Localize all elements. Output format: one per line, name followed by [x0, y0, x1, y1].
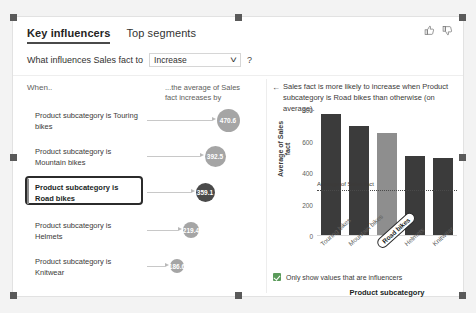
resize-handle-top-left[interactable] — [10, 14, 17, 21]
detail-bar-chart: Average of Sales fact 0200400600800 Aver… — [273, 110, 463, 260]
influencer-label: Product subcategory is Touring bikes — [35, 111, 139, 133]
header-divider — [13, 75, 463, 76]
thumbs-up-icon[interactable] — [424, 25, 435, 36]
y-axis-tick-label: 0 — [309, 233, 313, 240]
visual-tabs: Key influencers Top segments — [27, 27, 196, 44]
connector-arrow-icon — [212, 117, 216, 121]
y-axis-tick-label: 600 — [302, 138, 313, 145]
x-axis-title: Product subcategory — [317, 288, 457, 297]
connector-arrow-icon — [178, 227, 182, 231]
influencer-label: Product subcategory is Road bikes — [35, 183, 139, 205]
influencer-label: Product subcategory is Helmets — [35, 221, 139, 243]
question-label: What influences Sales fact to — [27, 55, 143, 65]
influencer-row[interactable]: Product subcategory is Helmets219.4 — [13, 217, 265, 253]
y-axis-tick-label: 400 — [302, 170, 313, 177]
column-header-when: When.. — [27, 83, 52, 92]
influencer-bubble[interactable]: 219.4 — [183, 222, 199, 238]
influencer-row[interactable]: Product subcategory is Road bikes359.1 — [13, 179, 265, 215]
tab-top-segments[interactable]: Top segments — [126, 27, 196, 44]
help-icon[interactable]: ? — [247, 55, 252, 65]
y-axis-tick-label: 800 — [302, 107, 313, 114]
tab-top-segments-label: Top segments — [126, 27, 196, 39]
y-axis-tick-label: 200 — [302, 201, 313, 208]
tab-key-influencers-label: Key influencers — [27, 27, 110, 39]
key-influencers-visual: Key influencers Top segments What influe… — [12, 16, 464, 297]
tab-key-influencers[interactable]: Key influencers — [27, 27, 110, 44]
checkbox-label: Only show values that are influencers — [286, 274, 402, 281]
connector-arrow-icon — [200, 153, 204, 157]
influencer-row[interactable]: Product subcategory is Knitwear186.6 — [13, 253, 265, 289]
x-axis-tick-labels: Touring bikesMountain bikesRoad bikesHel… — [317, 238, 467, 278]
connector-line — [147, 230, 178, 231]
question-row: What influences Sales fact to Increase ˅… — [27, 53, 252, 67]
influencer-label: Product subcategory is Mountain bikes — [35, 147, 139, 169]
detail-panel: ← Sales fact is more likely to increase … — [267, 77, 464, 297]
y-axis-ticks: 0200400600800 — [295, 110, 313, 236]
feedback-icons — [424, 25, 453, 36]
influencer-label: Product subcategory is Knitwear — [35, 257, 139, 279]
analysis-type-value: Increase — [154, 55, 187, 65]
analysis-type-dropdown[interactable]: Increase ˅ — [149, 53, 241, 67]
average-reference-line — [317, 190, 457, 191]
checkbox-icon[interactable] — [273, 273, 281, 281]
influencers-only-checkbox-row[interactable]: Only show values that are influencers — [273, 273, 402, 281]
chart-bar[interactable] — [433, 158, 453, 235]
connector-line — [147, 266, 165, 267]
resize-handle-top-right[interactable] — [459, 14, 466, 21]
influencer-bubble[interactable]: 359.1 — [196, 183, 215, 202]
influencer-bubble[interactable]: 470.6 — [217, 109, 240, 132]
influencer-row[interactable]: Product subcategory is Mountain bikes392… — [13, 143, 265, 179]
column-header-average: ...the average of Sales fact increases b… — [165, 83, 251, 103]
connector-line — [147, 156, 200, 157]
y-axis-title: Average of Sales fact — [277, 114, 291, 184]
influencer-bubble[interactable]: 392.5 — [205, 146, 226, 167]
connector-arrow-icon — [191, 189, 195, 193]
connector-line — [147, 192, 191, 193]
thumbs-down-icon[interactable] — [442, 25, 453, 36]
influencer-row[interactable]: Product subcategory is Touring bikes470.… — [13, 107, 265, 143]
average-reference-label: Average of Sales fact — [317, 181, 374, 187]
influencers-panel: When.. ...the average of Sales fact incr… — [13, 77, 265, 297]
resize-handle-top-middle[interactable] — [235, 14, 242, 21]
influencer-bubble[interactable]: 186.6 — [170, 259, 184, 273]
selection-accent-bar — [27, 179, 29, 204]
chart-bar[interactable] — [321, 114, 341, 235]
chevron-down-icon: ˅ — [230, 55, 237, 65]
connector-line — [147, 120, 212, 121]
plot-area: Average of Sales fact — [317, 110, 457, 236]
back-arrow-icon[interactable]: ← — [272, 83, 280, 92]
